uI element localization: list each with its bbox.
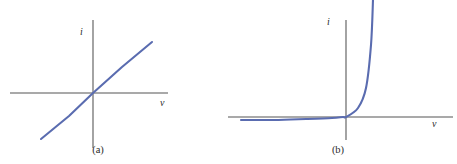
panel-a-plot	[0, 0, 228, 164]
panel-b-x-axis-label: v	[432, 119, 436, 129]
panel-b-diode-trace	[241, 0, 373, 120]
panel-b-diode-exponential: i v (b)	[228, 0, 457, 164]
panel-a-caption: (a)	[78, 145, 118, 156]
panel-a-x-axis-label: v	[160, 98, 164, 108]
panel-b-caption: (b)	[318, 145, 358, 156]
panel-b-plot	[228, 0, 457, 164]
panel-b-y-axis-label: i	[327, 17, 330, 27]
iv-characteristic-figure: i v (a) i v (b)	[0, 0, 457, 164]
panel-a-linear-resistor: i v (a)	[0, 0, 228, 164]
panel-a-linear-trace	[41, 42, 152, 139]
panel-a-y-axis-label: i	[80, 27, 83, 37]
